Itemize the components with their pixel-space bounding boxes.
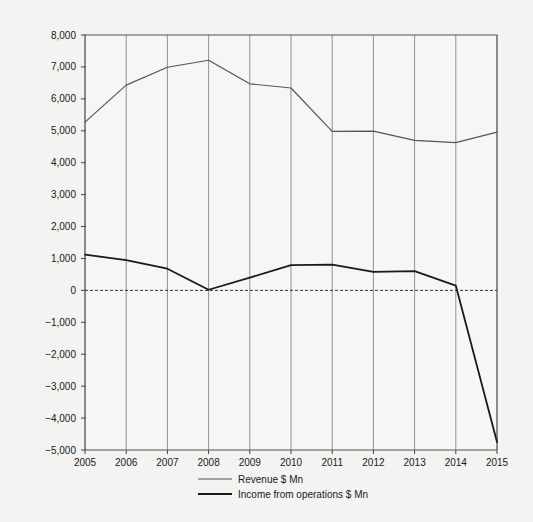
y-axis-tick-label: 5,000 [51, 125, 76, 136]
x-axis-tick-label: 2015 [486, 457, 509, 468]
y-axis-tick-label: 1,000 [51, 253, 76, 264]
legend-label: Income from operations $ Mn [238, 489, 368, 500]
y-axis-tick-label: 4,000 [51, 157, 76, 168]
y-axis-tick-label: 6,000 [51, 93, 76, 104]
chart-svg: −5,000−4,000−3,000−2,000−1,00001,0002,00… [0, 0, 533, 522]
y-axis-tick-label: 7,000 [51, 61, 76, 72]
y-axis-tick-label: −5,000 [45, 445, 76, 456]
y-axis-tick-label: −1,000 [45, 317, 76, 328]
x-axis-tick-label: 2012 [362, 457, 385, 468]
y-axis-tick-label: 0 [70, 285, 76, 296]
legend-label: Revenue $ Mn [238, 474, 303, 485]
x-axis-tick-label: 2008 [197, 457, 220, 468]
x-axis-tick-label: 2009 [239, 457, 262, 468]
x-axis-tick-label: 2014 [445, 457, 468, 468]
y-axis-tick-label: −2,000 [45, 349, 76, 360]
x-axis-tick-label: 2007 [156, 457, 179, 468]
x-axis-tick-label: 2013 [403, 457, 426, 468]
y-axis-tick-label: −4,000 [45, 413, 76, 424]
y-axis-tick-label: 8,000 [51, 30, 76, 41]
x-axis-tick-label: 2011 [321, 457, 343, 468]
x-axis-tick-label: 2010 [280, 457, 303, 468]
line-chart-figure: −5,000−4,000−3,000−2,000−1,00001,0002,00… [0, 0, 533, 522]
x-axis-tick-label: 2005 [74, 457, 97, 468]
y-axis-tick-label: 2,000 [51, 221, 76, 232]
y-axis-tick-label: 3,000 [51, 189, 76, 200]
x-axis-tick-label: 2006 [115, 457, 138, 468]
y-axis-tick-label: −3,000 [45, 381, 76, 392]
